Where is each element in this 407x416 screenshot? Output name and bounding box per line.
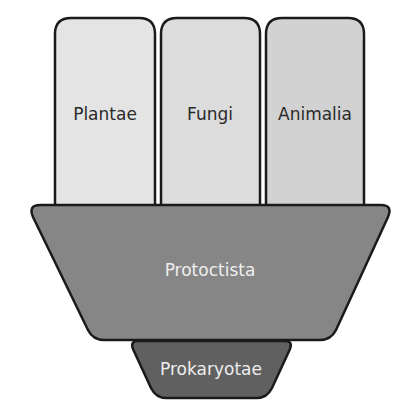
kingdom-prokaryotae: Prokaryotae [132,341,291,398]
plantae-label: Plantae [73,104,137,124]
animalia-label: Animalia [278,104,352,124]
kingdom-animalia: Animalia [266,18,364,206]
kingdom-protoctista: Protoctista [32,205,390,340]
prokaryotae-label: Prokaryotae [160,359,262,379]
fungi-label: Fungi [187,104,233,124]
kingdom-fungi: Fungi [161,18,260,206]
kingdom-plantae: Plantae [55,18,155,206]
protoctista-label: Protoctista [165,260,256,280]
kingdom-diagram: Plantae Fungi Animalia Protoctista Proka… [0,0,407,416]
